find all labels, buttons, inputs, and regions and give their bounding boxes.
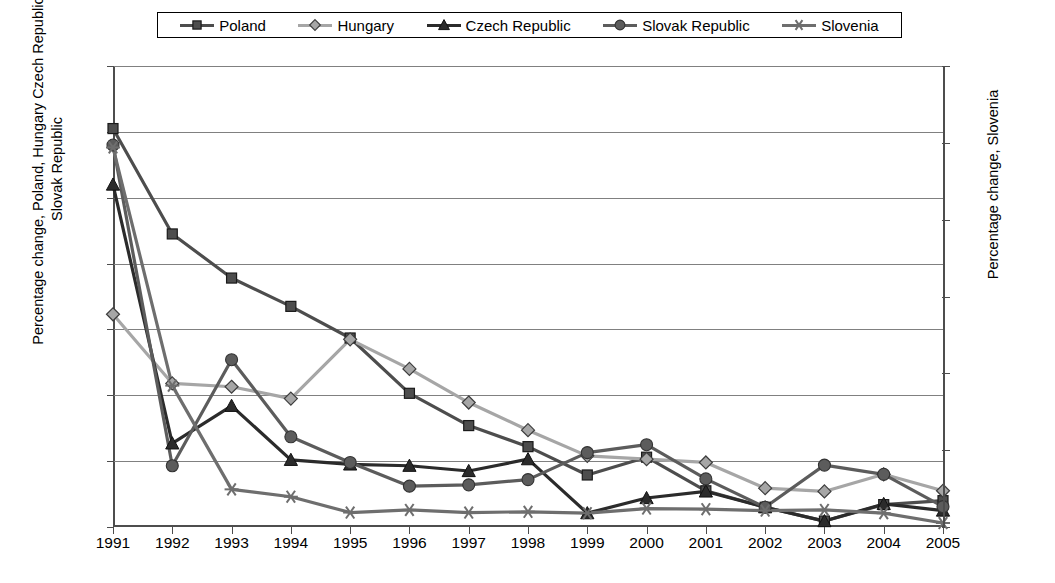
x-tick-mark [172, 527, 173, 534]
series-layer [113, 66, 943, 527]
right-axis-line [943, 66, 945, 527]
data-point-square [582, 470, 592, 480]
data-point-square [464, 421, 474, 431]
data-point-circle [166, 460, 178, 472]
diamond-marker-icon [298, 18, 332, 32]
data-point-asterisk [284, 491, 298, 503]
data-point-circle [463, 479, 475, 491]
data-point-circle [344, 456, 356, 468]
y-axis-title-left: Percentage change, Poland, Hungary Czech… [29, 0, 67, 349]
data-point-circle [226, 354, 238, 366]
legend-item-czech-republic[interactable]: Czech Republic [427, 18, 571, 33]
x-tick-mark [409, 527, 410, 534]
legend-item-slovenia[interactable]: Slovenia [782, 18, 879, 33]
data-point-circle [641, 439, 653, 451]
legend-label: Hungary [337, 18, 394, 33]
y-axis-title-right: Percentage change, Slovenia [984, 25, 1003, 345]
data-point-asterisk [462, 507, 476, 519]
data-point-circle [285, 431, 297, 443]
x-tick-label: 2005 [908, 535, 978, 551]
legend-label: Slovenia [821, 18, 879, 33]
chart-legend: PolandHungaryCzech RepublicSlovak Republ… [157, 12, 902, 38]
data-point-square [227, 273, 237, 283]
x-tick-mark [884, 527, 885, 534]
data-point-circle [581, 447, 593, 459]
data-point-diamond [699, 456, 712, 469]
legend-label: Poland [219, 18, 266, 33]
legend-item-hungary[interactable]: Hungary [298, 18, 394, 33]
plot-area: 010203040506070050100150200250300 [113, 66, 943, 527]
circle-marker-icon [603, 18, 637, 32]
data-point-circle [403, 480, 415, 492]
legend-item-slovak-republic[interactable]: Slovak Republic [603, 18, 750, 33]
x-tick-mark [647, 527, 648, 534]
data-point-asterisk [699, 503, 713, 515]
x-tick-mark [706, 527, 707, 534]
asterisk-marker-icon [782, 18, 816, 32]
x-tick-mark [528, 527, 529, 534]
data-point-asterisk [402, 504, 416, 516]
x-tick-mark [943, 527, 944, 534]
data-point-circle [522, 474, 534, 486]
data-point-square [404, 388, 414, 398]
data-point-diamond [462, 396, 475, 409]
data-point-asterisk [343, 507, 357, 519]
x-tick-mark [765, 527, 766, 534]
x-tick-mark [587, 527, 588, 534]
data-point-circle [107, 139, 119, 151]
data-point-circle [878, 468, 890, 480]
data-point-diamond [403, 362, 416, 375]
data-point-square [167, 229, 177, 239]
data-point-diamond [225, 380, 238, 393]
x-tick-mark [469, 527, 470, 534]
data-point-circle [700, 473, 712, 485]
x-tick-mark [291, 527, 292, 534]
data-point-square [523, 442, 533, 452]
data-point-diamond [818, 485, 831, 498]
data-point-asterisk [640, 503, 654, 515]
square-marker-icon [180, 18, 214, 32]
x-tick-mark [113, 527, 114, 534]
data-point-diamond [759, 482, 772, 495]
data-point-triangle [225, 399, 238, 411]
legend-item-poland[interactable]: Poland [180, 18, 266, 33]
legend-label: Czech Republic [466, 18, 571, 33]
data-point-square [108, 124, 118, 134]
x-tick-mark [232, 527, 233, 534]
x-tick-mark [350, 527, 351, 534]
data-point-triangle [106, 178, 119, 190]
data-point-circle [818, 459, 830, 471]
data-point-asterisk [225, 483, 239, 495]
triangle-marker-icon [427, 18, 461, 32]
data-point-triangle [438, 20, 449, 30]
data-point-square [193, 21, 201, 29]
data-point-asterisk [793, 20, 804, 30]
data-point-square [286, 301, 296, 311]
data-point-asterisk [521, 506, 535, 518]
data-point-diamond [522, 424, 535, 437]
chart-container: PolandHungaryCzech RepublicSlovak Republ… [0, 0, 1055, 583]
data-point-circle [615, 20, 625, 30]
x-tick-mark [824, 527, 825, 534]
data-point-diamond [310, 20, 321, 31]
legend-label: Slovak Republic [642, 18, 750, 33]
